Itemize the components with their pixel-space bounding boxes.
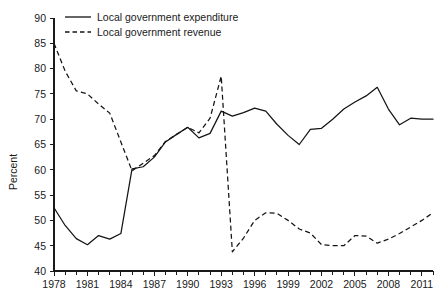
x-tick-label: 1990 [176,278,200,290]
x-tick-label: 2005 [343,278,367,290]
y-tick-label: 45 [34,240,46,252]
x-tick-label: 1981 [76,278,100,290]
series-line-expenditure [54,87,433,244]
y-tick-label: 75 [34,88,46,100]
x-tick-label: 1984 [109,278,133,290]
chart-legend: Local government expenditureLocal govern… [65,11,238,38]
x-tick-label: 1978 [42,278,66,290]
y-tick-label: 40 [34,265,46,277]
x-tick-label: 2002 [310,278,334,290]
y-tick-label: 80 [34,62,46,74]
x-tick-label: 1993 [210,278,234,290]
x-axis: 1978198119841987199019931996199920022005… [42,271,433,290]
y-tick-label: 70 [34,113,46,125]
series-line-revenue [54,43,433,251]
x-tick-label: 2008 [377,278,401,290]
y-axis-title: Percent [7,154,19,190]
x-tick-label: 1996 [243,278,267,290]
legend-label-revenue: Local government revenue [97,26,221,38]
y-tick-label: 60 [34,164,46,176]
legend-label-expenditure: Local government expenditure [97,11,238,23]
y-tick-label: 65 [34,138,46,150]
line-chart: 4045505560657075808590 19781981198419871… [0,0,440,304]
x-tick-label: 1999 [276,278,300,290]
x-tick-label: 2011 [411,278,434,290]
y-tick-label: 55 [34,189,46,201]
y-tick-label: 85 [34,37,46,49]
x-tick-label: 1987 [143,278,167,290]
y-axis: 4045505560657075808590 [34,12,54,277]
series-lines [54,43,433,251]
y-tick-label: 90 [34,12,46,24]
chart-container: 4045505560657075808590 19781981198419871… [0,0,440,304]
y-tick-label: 50 [34,214,46,226]
